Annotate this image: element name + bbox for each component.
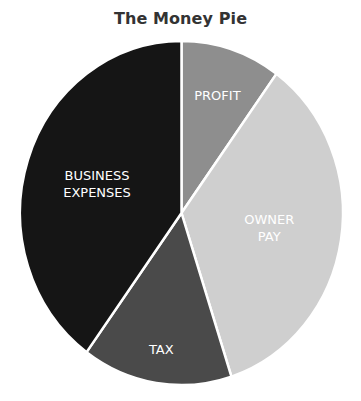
pie-chart: PROFITOWNERPAYTAXBUSINESSEXPENSES xyxy=(0,0,361,401)
pie-slices xyxy=(20,41,343,385)
slice-label-profit: PROFIT xyxy=(194,88,240,103)
slice-label-tax: TAX xyxy=(148,342,174,357)
